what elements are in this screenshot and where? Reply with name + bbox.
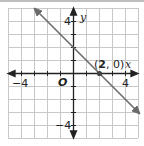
y-axis-down-arrow-icon — [71, 131, 77, 138]
x-tick-label-neg4: −4 — [12, 77, 28, 90]
y-axis-up-arrow-icon — [71, 8, 77, 15]
point-2-0 — [97, 71, 102, 76]
y-tick-label-4: 4 — [64, 15, 71, 28]
x-axis-label: x — [125, 58, 132, 71]
origin-label: O — [58, 76, 67, 89]
x-tick-label-4: 4 — [122, 77, 129, 90]
point-annotation: (2, 0) — [94, 58, 124, 71]
y-axis-label: y — [79, 11, 87, 24]
y-tick-label-neg4: −4 — [55, 119, 71, 132]
axes — [8, 8, 138, 138]
coordinate-plane: y x O −4 4 4 −4 (2, 0) — [0, 0, 144, 146]
x-axis-right-arrow-icon — [131, 71, 138, 77]
x-axis-left-arrow-icon — [8, 71, 15, 77]
